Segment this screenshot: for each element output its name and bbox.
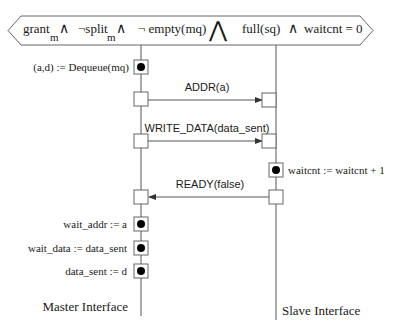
action-dot-icon: [272, 166, 280, 174]
message-write-data: [134, 134, 276, 148]
lifeline-label-slave: Slave Interface: [282, 303, 361, 318]
guard-term-grant-subscript: m: [50, 31, 59, 43]
message-label-addr: ADDR(a): [185, 81, 230, 93]
action-label-dequeue: (a,d) := Dequeue(mq): [33, 61, 129, 74]
guard-term-not-empty: ¬ empty(mq): [138, 21, 206, 36]
master-action-data-sent-box: [134, 264, 148, 278]
action-label-wait-addr: wait_addr := a: [63, 218, 127, 230]
guard-term-waitcnt: waitcnt = 0: [304, 21, 363, 36]
action-label-data-sent: data_sent := d: [65, 265, 127, 277]
message-addr: [134, 92, 276, 107]
action-dot-icon: [137, 267, 145, 275]
message-ready: [134, 190, 283, 204]
master-action-dequeue-box: [134, 60, 148, 74]
guard-and-1: ∧: [59, 21, 69, 36]
action-label-waitcnt: waitcnt := waitcnt + 1: [288, 164, 385, 176]
lifeline-label-master: Master Interface: [42, 299, 128, 314]
message-label-ready: READY(false): [176, 178, 244, 190]
guard-and-2: ∧: [116, 21, 126, 36]
message-label-write-data: WRITE_DATA(data_sent): [145, 122, 270, 134]
action-dot-icon: [137, 244, 145, 252]
guard-big-and: ⋀: [208, 17, 228, 42]
guard-term-split-subscript: m: [107, 31, 116, 43]
action-label-wait-data: wait_data := data_sent: [28, 242, 127, 254]
action-dot-icon: [137, 220, 145, 228]
master-action-wait-data-box: [134, 241, 148, 255]
action-dot-icon: [137, 63, 145, 71]
guard-term-grant: grant: [23, 21, 50, 36]
master-action-wait-addr-box: [134, 217, 148, 231]
guard-term-full: full(sq): [242, 21, 280, 36]
guard-and-3: ∧: [288, 21, 298, 36]
guard-term-not-split: ¬split: [78, 21, 108, 36]
slave-action-waitcnt-box: [269, 163, 283, 177]
